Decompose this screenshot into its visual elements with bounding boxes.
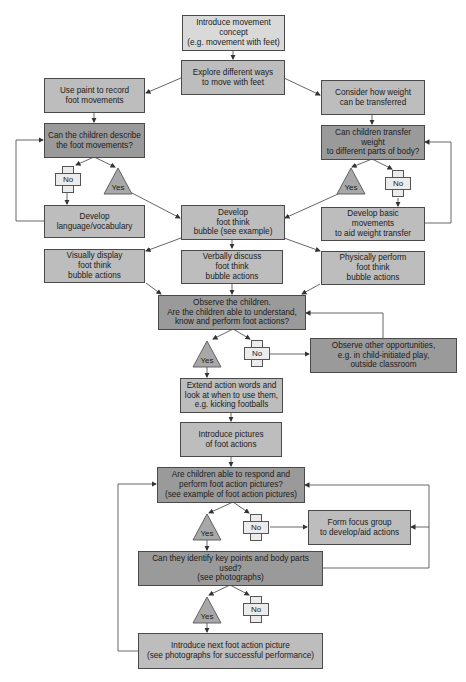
yes-label: Yes: [192, 612, 222, 621]
node-identify-question: Can they identify key points and body pa…: [138, 551, 323, 586]
no-label: No: [385, 170, 411, 197]
no-cross-icon: No: [55, 166, 81, 193]
node-introduce-next: Introduce next foot action picture (see …: [138, 633, 323, 669]
node-respond-question: Are children able to respond and perform…: [157, 467, 305, 503]
node-explore-ways: Explore different ways to move with feet: [181, 60, 285, 95]
no-label: No: [243, 596, 269, 623]
node-describe-question: Can the children describe the foot movem…: [44, 123, 145, 158]
node-visually-display: Visually display foot think bubble actio…: [44, 249, 145, 283]
yes-label: Yes: [103, 183, 133, 192]
node-develop-bubble: Develop foot think bubble (see example): [181, 205, 285, 240]
node-develop-language: Develop language/vocabulary: [44, 205, 145, 238]
node-verbally-discuss: Verbally discuss foot think bubble actio…: [181, 250, 283, 284]
yes-triangle-icon: Yes: [336, 167, 366, 195]
node-observe-children: Observe the children. Are the children a…: [158, 295, 306, 330]
node-introduce-concept: Introduce movement concept (e.g. movemen…: [182, 15, 285, 51]
yes-triangle-icon: Yes: [192, 513, 222, 541]
node-develop-basic-movements: Develop basic movements to aid weight tr…: [321, 207, 425, 241]
no-label: No: [55, 166, 81, 193]
no-label: No: [243, 514, 269, 541]
no-label: No: [244, 340, 270, 367]
node-physically-perform: Physically perform foot think bubble act…: [321, 251, 425, 285]
node-extend-words: Extend action words and look at when to …: [180, 378, 283, 413]
no-cross-icon: No: [385, 170, 411, 197]
yes-triangle-icon: Yes: [192, 596, 222, 624]
yes-label: Yes: [192, 356, 222, 365]
yes-label: Yes: [192, 529, 222, 538]
yes-triangle-icon: Yes: [103, 167, 133, 195]
node-transfer-question: Can children transfer weight to differen…: [321, 125, 425, 160]
no-cross-icon: No: [243, 514, 269, 541]
no-cross-icon: No: [243, 596, 269, 623]
no-cross-icon: No: [244, 340, 270, 367]
node-use-paint: Use paint to record foot movements: [44, 78, 145, 113]
yes-triangle-icon: Yes: [192, 340, 222, 368]
yes-label: Yes: [336, 183, 366, 192]
node-introduce-pictures: Introduce pictures of foot actions: [180, 422, 282, 457]
node-consider-weight: Consider how weight can be transferred: [321, 80, 425, 115]
node-focus-group: Form focus group to develop/aid actions: [308, 510, 411, 545]
node-observe-other: Observe other opportunities, e.g. in chi…: [310, 338, 457, 373]
